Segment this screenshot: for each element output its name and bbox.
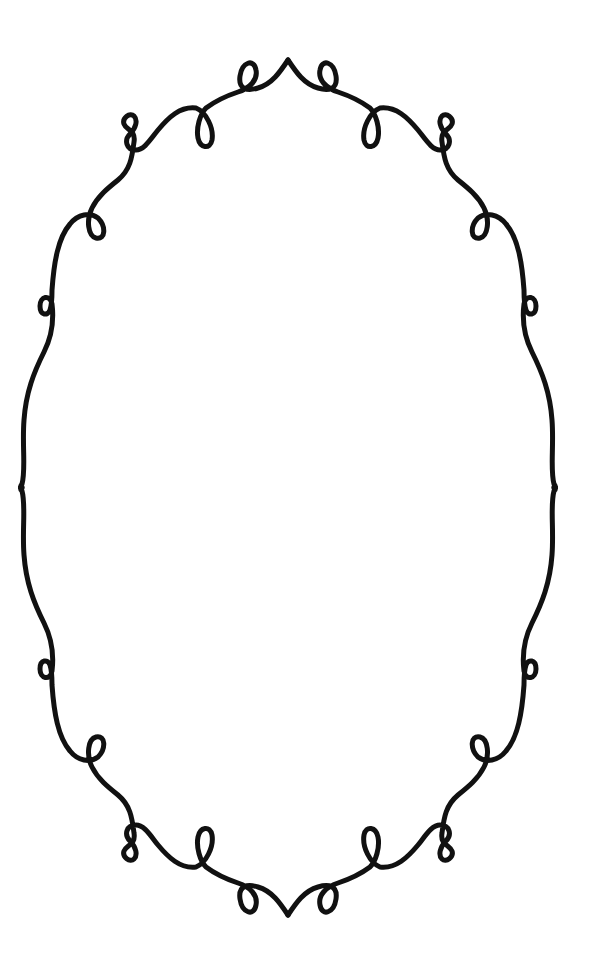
decorative-oval-frame	[0, 0, 614, 963]
frame-svg	[0, 0, 614, 963]
frame-lower-left	[21, 487, 289, 915]
frame-lower-right	[288, 487, 556, 915]
frame-upper-left	[21, 60, 289, 488]
frame-upper-right	[288, 60, 556, 488]
